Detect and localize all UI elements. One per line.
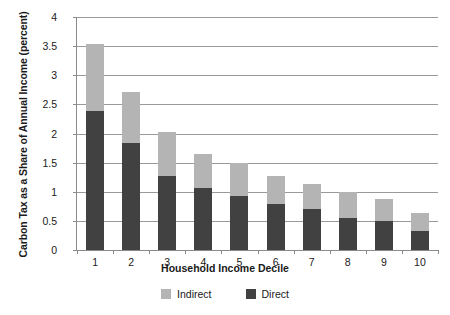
stacked-bar <box>411 213 429 250</box>
bar-segment-indirect <box>339 192 357 218</box>
bar-group <box>330 17 366 250</box>
bar-group <box>113 17 149 250</box>
x-tick-mark <box>77 250 78 254</box>
stacked-bar <box>86 44 104 250</box>
y-tick-label: 1.5 <box>17 158 57 168</box>
bar-segment-direct <box>267 204 285 250</box>
legend-label: Direct <box>262 288 289 300</box>
bar-group <box>185 17 221 250</box>
x-tick-mark <box>113 250 114 254</box>
bar-group <box>258 17 294 250</box>
stacked-bar <box>375 199 393 250</box>
bar-segment-indirect <box>230 163 248 196</box>
y-tick-label: 2.5 <box>17 99 57 109</box>
x-tick-mark <box>294 250 295 254</box>
legend-swatch <box>246 289 256 299</box>
bar-series-container <box>77 17 438 250</box>
stacked-bar <box>267 176 285 250</box>
bar-segment-direct <box>303 209 321 250</box>
bar-group <box>77 17 113 250</box>
legend-item: Direct <box>246 288 289 300</box>
bar-segment-indirect <box>122 92 140 144</box>
stacked-bar <box>158 132 176 250</box>
bar-segment-indirect <box>158 132 176 176</box>
y-tick-label: 1 <box>17 187 57 197</box>
x-tick-mark <box>330 250 331 254</box>
bar-segment-direct <box>230 196 248 250</box>
y-tick-label: 2 <box>17 129 57 139</box>
x-tick-mark <box>258 250 259 254</box>
bar-segment-direct <box>158 176 176 250</box>
x-tick-mark <box>221 250 222 254</box>
y-tick-label: 3 <box>17 70 57 80</box>
bar-segment-direct <box>122 143 140 250</box>
chart-legend: IndirectDirect <box>0 288 450 300</box>
bar-group <box>221 17 257 250</box>
stacked-bar <box>230 163 248 250</box>
x-tick-mark <box>149 250 150 254</box>
y-tick-label: 4 <box>17 12 57 22</box>
bar-segment-direct <box>339 218 357 250</box>
legend-label: Indirect <box>177 288 211 300</box>
bar-segment-indirect <box>267 176 285 204</box>
y-tick-label: 0.5 <box>17 216 57 226</box>
bar-segment-direct <box>375 221 393 250</box>
bar-group <box>294 17 330 250</box>
y-tick-label: 3.5 <box>17 41 57 51</box>
x-tick-mark <box>366 250 367 254</box>
bar-group <box>366 17 402 250</box>
legend-swatch <box>161 289 171 299</box>
carbon-tax-incidence-chart: Carbon Tax as a Share of Annual Income (… <box>0 0 450 315</box>
bar-group <box>149 17 185 250</box>
bar-segment-indirect <box>86 44 104 111</box>
x-tick-mark <box>438 250 439 254</box>
bar-segment-direct <box>411 231 429 250</box>
stacked-bar <box>194 154 212 250</box>
stacked-bar <box>122 92 140 250</box>
bar-segment-direct <box>86 111 104 250</box>
plot-area: 00.511.522.533.54 12345678910 <box>76 17 438 251</box>
bar-segment-indirect <box>411 213 429 230</box>
y-tick-label: 0 <box>17 245 57 255</box>
x-axis-title: Household Income Decile <box>0 262 450 274</box>
bar-group <box>402 17 438 250</box>
bar-segment-indirect <box>194 154 212 188</box>
x-tick-mark <box>185 250 186 254</box>
bar-segment-indirect <box>375 199 393 221</box>
x-tick-mark <box>402 250 403 254</box>
legend-item: Indirect <box>161 288 211 300</box>
stacked-bar <box>339 192 357 250</box>
bar-segment-direct <box>194 188 212 250</box>
stacked-bar <box>303 184 321 250</box>
bar-segment-indirect <box>303 184 321 209</box>
